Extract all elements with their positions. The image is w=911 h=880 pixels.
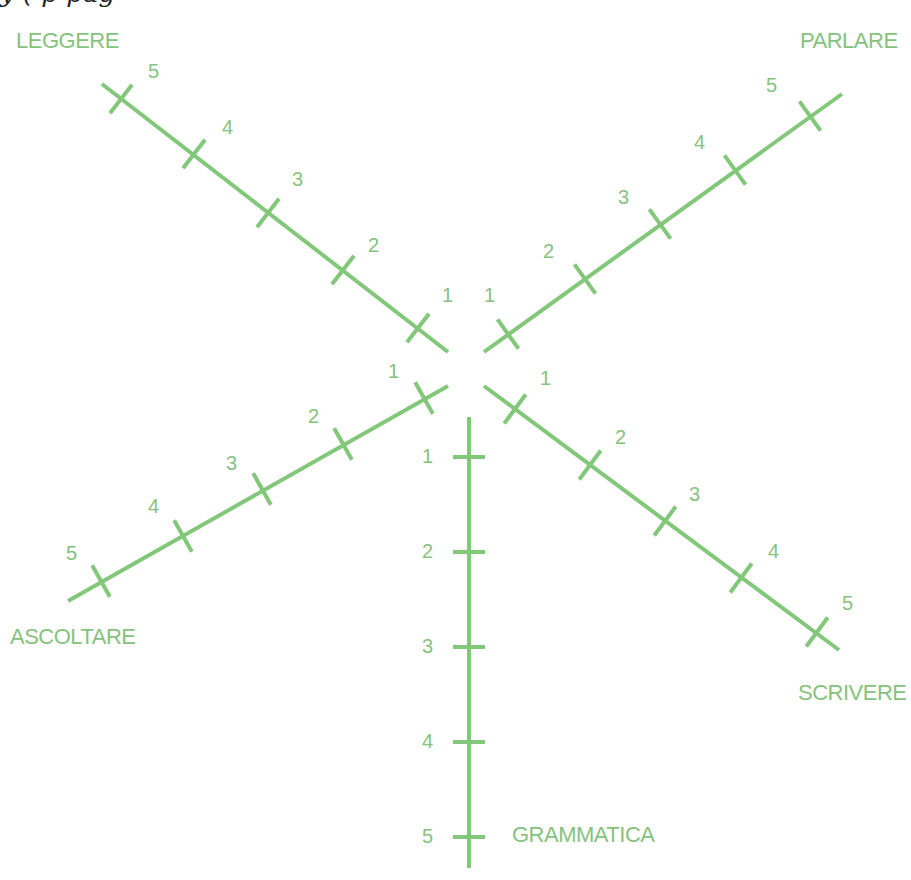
axis-parlare-tick-4 (724, 155, 745, 184)
axis-scrivere-tick-label-4: 4 (768, 540, 779, 562)
axis-leggere-tick-label-1: 1 (442, 284, 453, 306)
axis-ascoltare-tick-label-3: 3 (226, 452, 237, 474)
axis-leggere-tick-5 (110, 85, 132, 113)
axis-scrivere-tick-label-3: 3 (689, 483, 700, 505)
axis-parlare-tick-label-3: 3 (618, 186, 629, 208)
axis-label-leggere: LEGGERE (16, 28, 119, 53)
axis-leggere-tick-label-5: 5 (148, 60, 159, 82)
skills-radar-diagram: 12345LEGGERE12345PARLARE12345ASCOLTARE12… (0, 0, 911, 880)
axis-leggere-tick-4 (183, 140, 205, 168)
axis-grammatica-tick-label-3: 3 (422, 635, 433, 657)
axis-ascoltare-tick-label-5: 5 (66, 542, 77, 564)
axis-grammatica-tick-label-5: 5 (422, 825, 433, 847)
axis-leggere-tick-2 (332, 256, 354, 284)
axis-parlare-tick-label-5: 5 (766, 74, 777, 96)
axis-ascoltare-line (68, 386, 448, 601)
axis-leggere-line (102, 84, 448, 352)
axis-ascoltare-tick-label-1: 1 (388, 360, 399, 382)
axis-ascoltare-tick-label-2: 2 (308, 405, 319, 427)
axis-scrivere-tick-3 (654, 507, 675, 536)
axis-leggere-tick-label-3: 3 (292, 168, 303, 190)
axis-grammatica-tick-label-1: 1 (422, 445, 433, 467)
axis-scrivere-tick-label-5: 5 (842, 592, 853, 614)
axis-parlare-tick-label-2: 2 (543, 240, 554, 262)
axis-scrivere-tick-1 (504, 395, 525, 424)
axis-parlare-tick-3 (649, 209, 670, 238)
axis-scrivere-tick-5 (806, 618, 827, 647)
axis-leggere-tick-label-4: 4 (222, 116, 233, 138)
axis-label-grammatica: GRAMMATICA (512, 822, 655, 847)
axis-ascoltare-tick-4 (174, 520, 192, 551)
axis-parlare-tick-2 (574, 264, 595, 293)
axis-scrivere-tick-label-1: 1 (540, 367, 551, 389)
axis-ascoltare-tick-label-4: 4 (148, 495, 159, 517)
axis-label-scrivere: SCRIVERE (798, 680, 906, 705)
axis-label-parlare: PARLARE (800, 28, 898, 53)
axis-parlare-line (484, 94, 842, 352)
axis-leggere-tick-3 (257, 199, 279, 227)
axis-parlare-tick-1 (497, 319, 518, 348)
axis-leggere-tick-1 (407, 314, 429, 342)
axis-scrivere-line (484, 386, 839, 650)
axis-parlare-tick-label-1: 1 (484, 284, 495, 306)
axis-scrivere-tick-label-2: 2 (615, 426, 626, 448)
axis-scrivere-tick-4 (730, 564, 751, 593)
axis-parlare-tick-label-4: 4 (694, 131, 705, 153)
axis-scrivere-tick-2 (579, 451, 600, 480)
axis-grammatica-tick-label-2: 2 (422, 540, 433, 562)
axis-parlare-tick-5 (799, 101, 820, 130)
axis-grammatica-tick-label-4: 4 (422, 730, 433, 752)
axis-label-ascoltare: ASCOLTARE (10, 624, 136, 649)
axis-leggere-tick-label-2: 2 (368, 234, 379, 256)
